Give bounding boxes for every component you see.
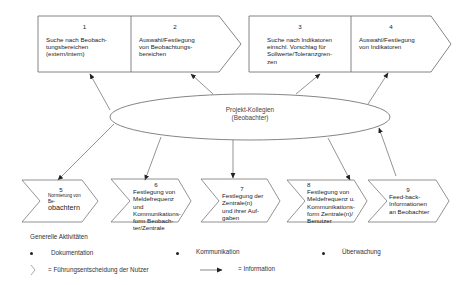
info-arrows-down (58, 124, 396, 180)
step-9-number: 9 (389, 186, 427, 193)
box-4-line: von Indikatoren (359, 43, 431, 50)
step-8-line: form Zentrale(n)/ (307, 210, 357, 217)
step-8-line: Kommunikations- (307, 203, 357, 210)
step-6-line: form Beobach- (133, 217, 183, 224)
legend-bullet-icon (176, 252, 179, 255)
info-arrows-up (90, 73, 388, 110)
legend-bullet-icon (322, 252, 325, 255)
ellipse-line-2: (Beobachter) (200, 114, 300, 122)
legend-chevron-meaning: = Führungsentscheidung der Nutzer (48, 266, 149, 273)
box-4-text: Auswahl/Festlegung von Indikatoren (359, 36, 431, 50)
box-1-number: 1 (38, 23, 131, 30)
box-4-number: 4 (351, 23, 431, 30)
step-5-text: 5 Normierung von Be- obachtern (48, 186, 88, 211)
step-7-line: gaben (222, 214, 270, 221)
legend-arrow-meaning: = Information (238, 265, 275, 272)
legend-item-communication: Kommunikation (196, 248, 239, 255)
step-5-line-big: obachtern (48, 204, 88, 211)
step-7-line: Festlegung der (222, 192, 270, 199)
legend-title: Generelle Aktivitäten (30, 233, 88, 240)
step-7-text: 7 Festlegung der Zentrale(n) und ihrer A… (222, 185, 270, 221)
step-9-line: Informationen (389, 200, 439, 207)
box-2-text: Auswahl/Festlegung von Beobachtungs- ber… (139, 36, 219, 58)
ellipse-line-1: Projekt-Kollegien (200, 106, 300, 114)
step-6-number: 6 (133, 181, 179, 188)
step-7-line: Zentrale(n) (222, 199, 270, 206)
box-1-line: tungsbereichen (46, 43, 130, 50)
box-3-line: Suche nach Indikatoren (267, 36, 351, 43)
step-7-number: 7 (222, 185, 262, 192)
step-9-text: 9 Feed-back- Informationen an Beobachter (389, 186, 439, 215)
step-9-line: Feed-back- (389, 193, 439, 200)
box-1-text: Suche nach Beobach- tungsbereichen (exte… (46, 36, 130, 58)
box-3-number: 3 (249, 23, 351, 30)
legend-chevron-icon (31, 265, 35, 275)
box-1-line: Suche nach Beobach- (46, 36, 130, 43)
step-8-line: Festlegung von (307, 188, 357, 195)
box-3-line: einschl. Vorschlag für (267, 43, 351, 50)
box-4-line: Auswahl/Festlegung (359, 36, 431, 43)
box-1-line: (extern/intern) (46, 50, 130, 57)
box-2-line: Auswahl/Festlegung (139, 36, 219, 43)
step-8-line: Meldefrequenz u. (307, 195, 357, 202)
step-6-line: Kommunikations- (133, 210, 183, 217)
project-colleagues-label: Projekt-Kollegien (Beobachter) (200, 106, 300, 121)
legend-bullet-icon (30, 252, 33, 255)
step-6-line: Festlegung von (133, 188, 183, 195)
step-8-text: 8 Festlegung von Meldefrequenz u. Kommun… (307, 181, 357, 224)
step-9-line: an Beobachter (389, 208, 439, 215)
box-2-number: 2 (131, 23, 219, 30)
box-3-line: zen (267, 58, 351, 65)
step-8-number: 8 (307, 181, 357, 188)
step-8-line: Benutzer (307, 217, 357, 224)
step-6-text: 6 Festlegung von Meldefrequenz und Kommu… (133, 181, 183, 231)
legend-item-monitoring: Überwachung (342, 248, 381, 255)
step-7-line: und ihrer Auf- (222, 207, 270, 214)
box-3-text: Suche nach Indikatoren einschl. Vorschla… (267, 36, 351, 65)
step-5-number: 5 (48, 186, 74, 193)
step-6-line: ter/Zentrale (133, 224, 183, 231)
box-2-line: von Beobachtungs- (139, 43, 219, 50)
box-2-line: bereichen (139, 50, 219, 57)
legend-item-documentation: Dokumentation (51, 249, 93, 256)
box-3-line: Sollwerte/Toleranzgren- (267, 50, 351, 57)
step-6-line: Meldefrequenz und (133, 195, 183, 209)
